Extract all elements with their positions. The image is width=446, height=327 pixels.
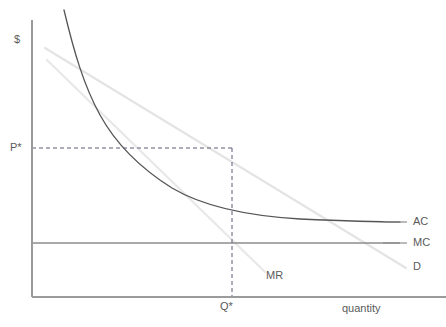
marginal-revenue-label: MR xyxy=(266,270,283,281)
average-cost-label: AC xyxy=(413,216,428,227)
plot-canvas xyxy=(0,0,446,327)
quantity-equilibrium-label: Q* xyxy=(220,301,233,312)
demand-label: D xyxy=(413,261,421,272)
marginal-cost-label: MC xyxy=(413,237,430,248)
economics-diagram: $ P* Q* quantity AC MC D MR xyxy=(0,0,446,327)
x-axis-label: quantity xyxy=(342,303,381,314)
y-axis-label: $ xyxy=(14,34,20,45)
price-equilibrium-label: P* xyxy=(10,142,22,153)
